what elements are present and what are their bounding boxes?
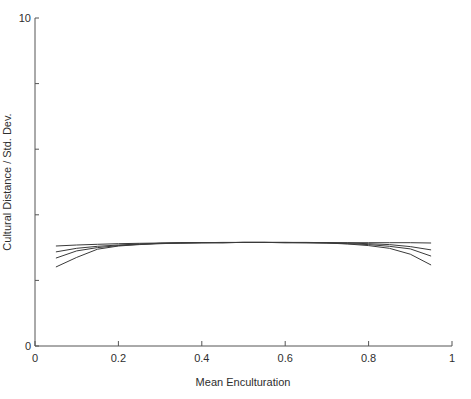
line-chart: 01000.20.40.60.81 Mean Enculturation Cul… (0, 0, 471, 399)
x-tick-label: 0.4 (194, 352, 209, 364)
y-axis-title: Cultural Distance / Std. Dev. (1, 113, 13, 250)
axes: 01000.20.40.60.81 (19, 12, 455, 364)
y-tick-label: 0 (25, 340, 31, 352)
series-line-3 (56, 242, 431, 258)
data-lines (56, 242, 431, 267)
x-tick-label: 1 (449, 352, 455, 364)
x-tick-label: 0.6 (278, 352, 293, 364)
x-tick-label: 0 (32, 352, 38, 364)
y-tick-label: 10 (19, 12, 31, 24)
x-axis-title: Mean Enculturation (196, 376, 291, 388)
x-tick-label: 0.2 (111, 352, 126, 364)
x-tick-label: 0.8 (361, 352, 376, 364)
